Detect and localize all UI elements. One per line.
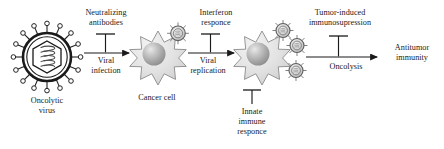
oncolytic-virus-icon (11, 21, 83, 93)
inhibition-bar-innate-immune-responce (243, 90, 261, 104)
attached-virion-icon (167, 22, 189, 44)
released-virion-icon (286, 60, 307, 81)
cancer-cell-nucleus (143, 43, 166, 66)
arrow-viral-replication (188, 34, 234, 53)
inhibition-bar-tumor-induced-immunosupression (329, 36, 348, 56)
progeny-virion-icon-b (287, 35, 308, 56)
progeny-virion-icon-a (273, 20, 294, 41)
inhibition-bar-neutralizing-antibodies (96, 34, 115, 52)
arrow-oncolysis (306, 36, 377, 57)
infected-cancer-cell-icon (234, 20, 308, 85)
oncolytic-virus-pathway-figure: Neutralizing antibodies Viral infection … (0, 0, 444, 149)
infected-cancer-cell-nucleus (247, 43, 270, 66)
inhibition-bar-interferon-responce (201, 34, 220, 52)
diagram-graphics-layer (0, 0, 444, 149)
arrow-viral-infection (84, 34, 129, 53)
cancer-cell-icon (130, 22, 189, 85)
